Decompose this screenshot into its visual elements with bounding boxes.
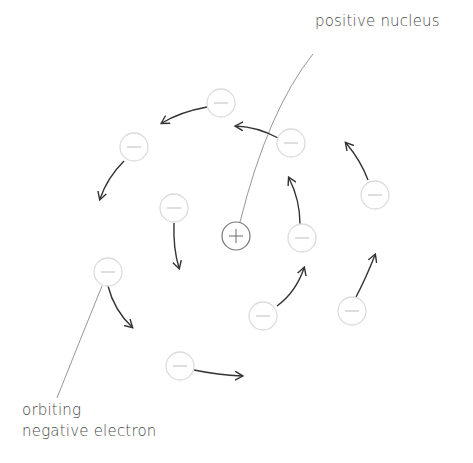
orbit-arrow-icon — [162, 107, 207, 123]
positive-nucleus-label: positive nucleus — [315, 11, 440, 32]
electron — [94, 258, 122, 286]
orbit-arrow-icon — [100, 161, 124, 199]
orbit-arrow-icon — [194, 370, 242, 376]
electron-label-line1: orbiting — [22, 400, 157, 421]
orbit-arrow-icon — [174, 223, 179, 268]
orbit-arrow-icon — [356, 255, 375, 297]
orbiting-electron-label: orbiting negative electron — [22, 400, 157, 442]
orbit-arrow-icon — [236, 126, 278, 138]
orbit-arrow-icon — [289, 178, 300, 224]
atom-diagram — [0, 0, 473, 463]
leader-lines — [57, 54, 313, 398]
orbit-arrow-icon — [108, 286, 132, 327]
electron — [207, 89, 235, 117]
electron — [361, 181, 389, 209]
electron — [160, 194, 188, 222]
electron — [120, 133, 148, 161]
electron — [249, 302, 277, 330]
electron — [288, 224, 316, 252]
electron — [338, 297, 366, 325]
electron — [277, 129, 305, 157]
nucleus — [222, 222, 250, 250]
orbit-arrow-icon — [277, 268, 304, 306]
electron — [166, 352, 194, 380]
orbit-arrow-icon — [346, 143, 368, 180]
leader-line — [57, 286, 102, 398]
electron-label-line2: negative electron — [22, 421, 157, 442]
